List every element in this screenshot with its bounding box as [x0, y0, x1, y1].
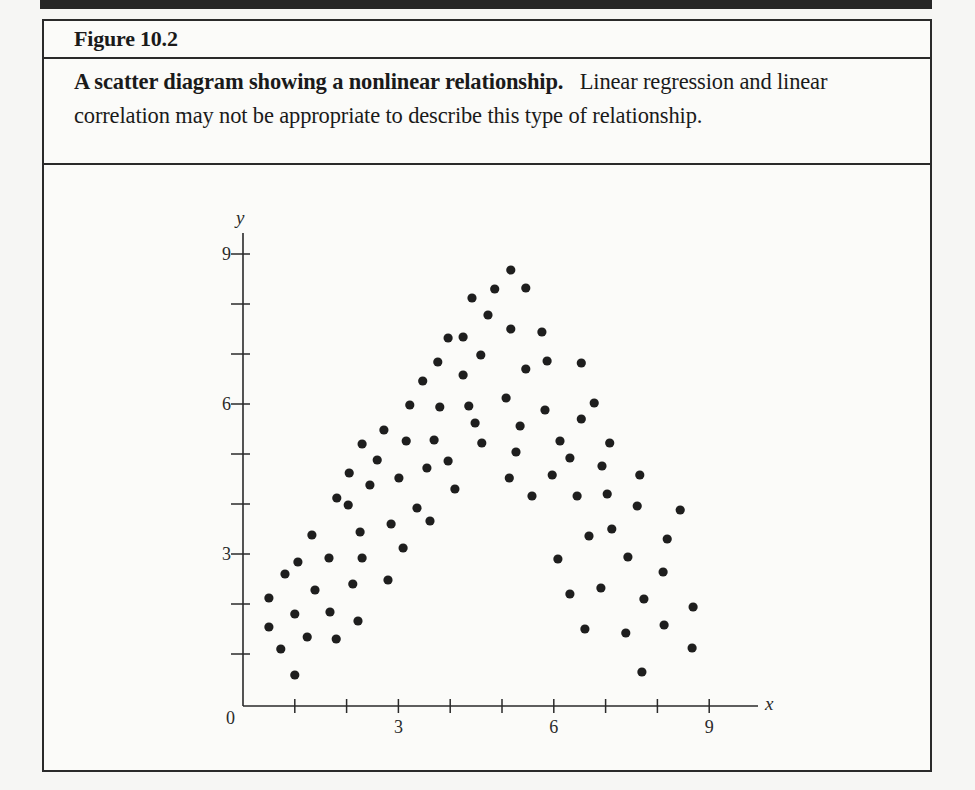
data-point [303, 632, 312, 641]
data-point [555, 436, 564, 445]
data-point [502, 393, 511, 402]
x-tick-label: 3 [394, 717, 403, 737]
data-point [379, 425, 388, 434]
data-point [464, 401, 473, 410]
data-point [476, 350, 485, 359]
data-point [637, 667, 646, 676]
data-point [565, 453, 574, 462]
data-point [663, 534, 672, 543]
x-axis-label: x [764, 693, 774, 714]
data-point [605, 438, 614, 447]
data-point [516, 421, 525, 430]
data-point [577, 358, 586, 367]
data-point [543, 356, 552, 365]
data-point [356, 527, 365, 536]
data-point [639, 594, 648, 603]
data-point [580, 624, 589, 633]
data-point [659, 567, 668, 576]
data-point [596, 583, 605, 592]
y-ticks: 369 [222, 244, 250, 654]
data-point [660, 620, 669, 629]
data-point [280, 569, 289, 578]
data-point [332, 634, 341, 643]
data-point [603, 489, 612, 498]
data-point [689, 602, 698, 611]
data-point [467, 293, 476, 302]
y-tick-label: 9 [222, 244, 231, 264]
y-axis-label: y [234, 207, 245, 228]
data-point [358, 553, 367, 562]
data-point [553, 554, 562, 563]
data-point [345, 468, 354, 477]
data-point [633, 501, 642, 510]
data-point [471, 418, 480, 427]
data-point [444, 456, 453, 465]
data-point [418, 376, 427, 385]
data-point [688, 643, 697, 652]
data-point [527, 491, 536, 500]
data-point [422, 463, 431, 472]
data-point [623, 552, 632, 561]
data-point [477, 438, 486, 447]
data-point [435, 402, 444, 411]
data-point [293, 557, 302, 566]
data-point [597, 461, 606, 470]
data-point [348, 579, 357, 588]
data-point [430, 435, 439, 444]
data-point [521, 283, 530, 292]
data-point [405, 400, 414, 409]
scatter-plot: 369 369 y x 0 [0, 0, 975, 790]
data-point [332, 493, 341, 502]
data-point [635, 470, 644, 479]
data-point [290, 670, 299, 679]
data-point [548, 470, 557, 479]
y-tick-label: 6 [222, 394, 231, 414]
data-point [412, 503, 421, 512]
data-point [505, 473, 514, 482]
data-point [444, 333, 453, 342]
origin-label: 0 [226, 708, 235, 728]
data-point [264, 593, 273, 602]
data-point [584, 531, 593, 540]
data-point [459, 370, 468, 379]
data-point [459, 332, 468, 341]
data-point [506, 265, 515, 274]
data-points [264, 265, 697, 679]
data-point [324, 553, 333, 562]
data-point [450, 484, 459, 493]
y-tick-label: 3 [222, 544, 231, 564]
data-point [325, 607, 334, 616]
data-point [394, 473, 403, 482]
data-point [565, 589, 574, 598]
axes [243, 233, 758, 706]
data-point [506, 324, 515, 333]
data-point [307, 530, 316, 539]
data-point [540, 405, 549, 414]
data-point [483, 310, 492, 319]
data-point [276, 644, 285, 653]
data-point [365, 480, 374, 489]
data-point [607, 524, 616, 533]
data-point [402, 436, 411, 445]
data-point [521, 364, 530, 373]
data-point [676, 505, 685, 514]
data-point [344, 500, 353, 509]
data-point [425, 516, 434, 525]
data-point [373, 455, 382, 464]
data-point [573, 491, 582, 500]
data-point [577, 414, 586, 423]
data-point [511, 447, 520, 456]
data-point [358, 439, 367, 448]
data-point [399, 543, 408, 552]
data-point [387, 519, 396, 528]
data-point [383, 575, 392, 584]
data-point [310, 585, 319, 594]
x-tick-label: 9 [705, 717, 714, 737]
data-point [590, 398, 599, 407]
data-point [264, 622, 273, 631]
data-point [290, 609, 299, 618]
data-point [433, 357, 442, 366]
x-ticks: 369 [295, 699, 714, 737]
data-point [621, 628, 630, 637]
data-point [537, 327, 546, 336]
